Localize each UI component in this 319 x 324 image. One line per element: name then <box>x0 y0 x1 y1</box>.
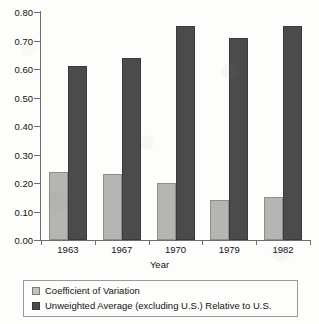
y-axis-tick <box>34 69 40 70</box>
y-axis-tick-label-slot: 0.50 <box>0 98 33 99</box>
x-axis-line <box>34 240 311 241</box>
bar-1982-series-2 <box>283 26 302 240</box>
y-axis-tick <box>34 155 40 156</box>
bar-chart: 0.000.100.200.300.400.500.600.700.80 196… <box>0 0 319 324</box>
bar-1967-series-2 <box>122 58 141 240</box>
x-axis-tick-label: 1982 <box>256 245 310 255</box>
y-axis-tick-label-slot: 0.10 <box>0 212 33 213</box>
y-axis-tick-label-slot: 0.70 <box>0 41 33 42</box>
y-axis-tick-label: 0.10 <box>1 208 33 218</box>
bar-1970-series-2 <box>176 26 195 240</box>
y-axis-tick <box>34 98 40 99</box>
y-axis-tick <box>34 183 40 184</box>
x-axis-tick <box>310 240 311 245</box>
x-axis-tick-label: 1967 <box>95 245 149 255</box>
bar-1967-series-1 <box>103 174 122 240</box>
bar-1970-series-1 <box>157 183 176 240</box>
x-axis-tick-label: 1979 <box>202 245 256 255</box>
y-axis-tick-label: 0.80 <box>1 8 33 18</box>
bar-1979-series-2 <box>229 38 248 240</box>
y-axis-tick-label-slot: 0.30 <box>0 155 33 156</box>
bar-1963-series-2 <box>68 66 87 240</box>
legend-swatch-light-gray-square <box>32 287 40 295</box>
y-axis-tick <box>34 126 40 127</box>
y-axis-tick-label-slot: 0.00 <box>0 240 33 241</box>
bar-1982-series-1 <box>264 197 283 240</box>
legend-swatch-dark-gray-square <box>32 302 40 310</box>
legend-label: Coefficient of Variation <box>45 286 140 296</box>
x-axis-title: Year <box>0 259 319 270</box>
x-axis-tick-label: 1963 <box>41 245 95 255</box>
y-axis-line <box>40 11 41 241</box>
y-axis-tick-label: 0.50 <box>1 94 33 104</box>
y-axis-tick-label: 0.00 <box>1 236 33 246</box>
x-axis-tick-label: 1970 <box>149 245 203 255</box>
bar-1979-series-1 <box>210 200 229 240</box>
y-axis-tick-label-slot: 0.80 <box>0 12 33 13</box>
bar-1963-series-1 <box>49 172 68 240</box>
legend-item-coefficient-of-variation: Coefficient of Variation <box>32 286 140 296</box>
legend-label: Unweighted Average (excluding U.S.) Rela… <box>45 301 271 311</box>
y-axis-tick <box>34 240 40 241</box>
chart-legend: Coefficient of Variation Unweighted Aver… <box>23 280 298 317</box>
y-axis-tick-label: 0.60 <box>1 65 33 75</box>
legend-item-unweighted-average: Unweighted Average (excluding U.S.) Rela… <box>32 301 271 311</box>
y-axis-tick-label: 0.70 <box>1 37 33 47</box>
y-axis-tick-label-slot: 0.60 <box>0 69 33 70</box>
plot-wrapper: 0.000.100.200.300.400.500.600.700.80 196… <box>0 0 319 250</box>
y-axis-tick <box>34 41 40 42</box>
y-axis-tick-label-slot: 0.20 <box>0 183 33 184</box>
y-axis-tick-label: 0.30 <box>1 151 33 161</box>
y-axis-tick <box>34 212 40 213</box>
y-axis-tick-label: 0.20 <box>1 179 33 189</box>
y-axis-tick-label: 0.40 <box>1 122 33 132</box>
y-axis-tick <box>34 12 40 13</box>
y-axis-tick-label-slot: 0.40 <box>0 126 33 127</box>
